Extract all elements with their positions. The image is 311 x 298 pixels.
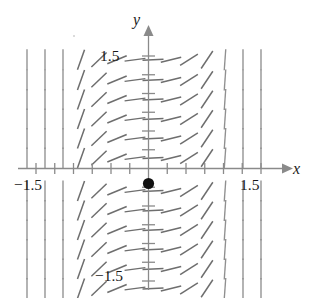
slope-segment: [201, 241, 213, 258]
x-axis-tick-label-positive: 1.5: [240, 177, 259, 193]
slope-segment: [180, 94, 198, 105]
slope-segment: [180, 224, 198, 235]
slope-segment: [125, 157, 146, 160]
slope-segment: [180, 263, 198, 274]
page-speck: [73, 35, 75, 37]
slope-segment: [224, 181, 226, 202]
slope-segment: [201, 260, 213, 277]
slope-segment: [180, 205, 198, 216]
slope-segment: [161, 188, 181, 193]
slope-segment: [224, 278, 226, 298]
slope-segment: [224, 70, 226, 91]
slope-segment: [161, 97, 181, 102]
slope-segment: [91, 151, 106, 165]
slope-segment: [77, 259, 84, 279]
slope-segment: [201, 51, 213, 68]
slope-segment: [143, 230, 164, 231]
slope-segment: [143, 288, 164, 289]
x-axis-tick-label-negative: −1.5: [14, 177, 42, 193]
slope-segment: [125, 137, 146, 140]
slope-segment: [201, 221, 213, 238]
slope-segment: [91, 242, 106, 256]
slope-field-segments: [27, 49, 261, 298]
slope-segment: [125, 190, 146, 193]
slope-field-canvas: [0, 0, 311, 298]
slope-segment: [107, 134, 126, 142]
slope-segment: [91, 92, 106, 106]
slope-field-figure: y x 1.5 −1.5 −1.5 1.5: [0, 0, 311, 298]
slope-segment: [77, 279, 84, 298]
slope-segment: [161, 208, 181, 213]
slope-segment: [201, 91, 213, 108]
y-axis-tick-label-negative: −1.5: [95, 268, 123, 284]
slope-segment: [143, 138, 164, 139]
slope-segment: [107, 95, 126, 103]
slope-segment: [224, 200, 226, 221]
slope-segment: [161, 227, 181, 232]
slope-segment: [77, 70, 84, 90]
slope-segment: [125, 118, 146, 121]
equilibrium-point: [143, 178, 154, 189]
slope-segment: [107, 206, 126, 214]
y-axis-label: y: [133, 12, 140, 28]
slope-segment: [77, 220, 84, 240]
slope-segment: [77, 50, 84, 70]
slope-segment: [143, 269, 164, 270]
x-axis-arrowhead: [282, 164, 293, 174]
slope-segment: [125, 98, 146, 101]
slope-segment: [143, 158, 164, 159]
slope-segment: [224, 239, 226, 260]
slope-segment: [107, 76, 126, 84]
slope-segment: [125, 209, 146, 212]
slope-segment: [161, 116, 181, 121]
slope-segment: [143, 99, 164, 100]
slope-segment: [180, 133, 198, 144]
slope-segment: [143, 59, 164, 60]
slope-segment: [77, 90, 84, 110]
slope-segment: [91, 112, 106, 126]
slope-segment: [77, 240, 84, 260]
slope-segment: [161, 286, 181, 291]
slope-segment: [201, 182, 213, 199]
slope-segment: [107, 187, 126, 195]
slope-segment: [201, 71, 213, 88]
slope-segment: [107, 115, 126, 123]
slope-segment: [77, 201, 84, 221]
slope-segment: [180, 113, 198, 124]
slope-segment: [224, 89, 226, 110]
slope-segment: [161, 247, 181, 252]
slope-segment: [107, 154, 126, 162]
slope-segment: [224, 259, 226, 280]
slope-segment: [180, 185, 198, 196]
slope-segment: [180, 74, 198, 85]
slope-segment: [161, 57, 181, 62]
slope-segment: [143, 191, 164, 192]
slope-segment: [125, 58, 146, 61]
slope-segment: [107, 245, 126, 253]
slope-segment: [91, 203, 106, 217]
slope-segment: [91, 131, 106, 145]
slope-segment: [224, 148, 226, 169]
slope-segment: [77, 129, 84, 149]
slope-segment: [201, 130, 213, 147]
slope-segment: [201, 280, 213, 297]
slope-segment: [107, 226, 126, 234]
slope-segment: [91, 223, 106, 237]
slope-segment: [180, 244, 198, 255]
slope-segment: [161, 77, 181, 82]
slope-segment: [224, 49, 226, 70]
slope-segment: [224, 109, 226, 130]
slope-segment: [201, 149, 213, 166]
slope-segment: [224, 220, 226, 241]
slope-segment: [77, 148, 84, 168]
slope-segment: [224, 128, 226, 149]
slope-segment: [125, 229, 146, 232]
slope-segment: [161, 155, 181, 160]
x-axis-label: x: [293, 161, 300, 177]
slope-segment: [91, 73, 106, 87]
slope-segment: [201, 202, 213, 219]
slope-segment: [201, 110, 213, 127]
slope-segment: [143, 119, 164, 120]
slope-segment: [143, 210, 164, 211]
y-axis-arrowhead: [144, 25, 154, 36]
